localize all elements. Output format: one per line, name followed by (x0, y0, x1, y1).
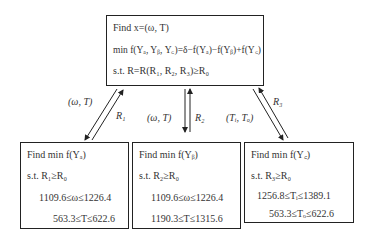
master-constraint: s.t. R=R(R₁, R₂, R₃)≥R₀ (113, 65, 209, 77)
sub-a-range-2: 563.3≤T≤622.6 (53, 213, 115, 225)
sub-c-range-1: 1256.8≤Tᵢ≤1389.1 (257, 190, 331, 202)
subproblem-box-b: Find min f(Yᵦ) s.t. R₂≥R₀ 1109.6≤ω≤1226.… (132, 142, 241, 229)
edge-2-down-label: (ω, T) (147, 112, 171, 123)
sub-b-title: Find min f(Yᵦ) (139, 149, 198, 161)
edge-3-down-label: (Tᵢ, Tₒ) (226, 112, 253, 123)
sub-c-title: Find min f(Y꜀) (251, 149, 310, 161)
sub-c-constraint: s.t. R₃≥R₀ (251, 170, 291, 182)
sub-b-range-2: 1190.3≤T≤1315.6 (151, 213, 223, 225)
master-find: Find x=(ω, T) (113, 22, 169, 34)
master-problem-box: Find x=(ω, T) min f(Yₐ, Yᵦ, Y꜀)=δ−f(Yₐ)−… (106, 15, 264, 86)
sub-a-range-1: 1109.6≤ω≤1226.4 (39, 192, 111, 204)
sub-a-title: Find min f(Yₐ) (27, 149, 86, 161)
edge-1-down-label: (ω, T) (68, 96, 92, 107)
sub-b-range-1: 1109.6≤ω≤1226.4 (151, 192, 223, 204)
sub-c-range-2: 563.3≤Tₒ≤622.6 (269, 208, 334, 220)
subproblem-box-a: Find min f(Yₐ) s.t. R₁≥R₀ 1109.6≤ω≤1226.… (20, 142, 129, 229)
sub-a-constraint: s.t. R₁≥R₀ (27, 170, 67, 182)
edge-3-up-label: R₃ (273, 96, 283, 107)
sub-b-constraint: s.t. R₂≥R₀ (139, 170, 179, 182)
master-objective: min f(Yₐ, Yᵦ, Y꜀)=δ−f(Yₐ)−f(Yᵦ)+f(Y꜀) (113, 44, 261, 56)
edge-1-up-label: R₁ (116, 110, 126, 121)
edge-2-up-label: R₂ (195, 112, 205, 123)
subproblem-box-c: Find min f(Y꜀) s.t. R₃≥R₀ 1256.8≤Tᵢ≤1389… (244, 142, 354, 223)
